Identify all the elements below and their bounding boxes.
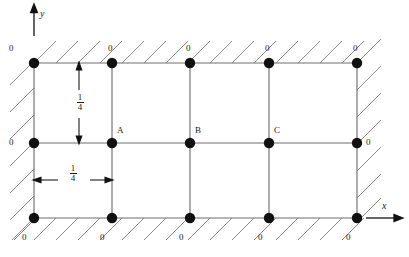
grid-node-b	[185, 138, 195, 148]
grid-node	[107, 213, 117, 223]
grid-drawing-canvas	[0, 0, 409, 257]
y-axis-label: y	[40, 9, 44, 19]
fraction-denominator: 4	[65, 174, 81, 183]
dimension-label-vertical-quarter: 1 4	[72, 93, 88, 113]
grid-node	[29, 58, 39, 68]
grid-node-c	[264, 138, 274, 148]
grid-node	[264, 213, 274, 223]
grid-node	[264, 58, 274, 68]
hatching-top	[34, 41, 379, 63]
x-axis-label: x	[382, 201, 386, 211]
dimension-label-horizontal-quarter: 1 4	[65, 164, 81, 184]
grid-node	[29, 213, 39, 223]
node-label-a: A	[117, 126, 124, 135]
boundary-label-top-4: 0	[353, 44, 358, 53]
node-label-b: B	[195, 126, 201, 135]
boundary-label-top-3: 0	[265, 44, 270, 53]
grid-node	[185, 58, 195, 68]
x-axis-arrowhead	[394, 214, 403, 221]
hatching-left	[10, 61, 34, 240]
hatching-group	[10, 39, 381, 240]
boundary-label-right-0: 0	[366, 138, 371, 147]
grid-node	[29, 138, 39, 148]
grid-node-a	[107, 138, 117, 148]
fraction-denominator: 4	[72, 103, 88, 112]
grid-node	[107, 58, 117, 68]
boundary-label-bottom-3: 0	[258, 233, 263, 242]
boundary-label-bottom-4: 0	[346, 233, 351, 242]
y-axis-arrowhead	[31, 4, 38, 13]
boundary-label-bottom-0: 0	[22, 233, 27, 242]
boundary-label-top-1: 0	[108, 44, 113, 53]
boundary-label-top-0: 0	[9, 44, 14, 53]
grid-node	[352, 138, 362, 148]
boundary-label-top-2: 0	[186, 44, 191, 53]
boundary-label-bottom-1: 0	[100, 233, 105, 242]
grid-lines-group	[34, 63, 357, 218]
boundary-label-bottom-2: 0	[179, 233, 184, 242]
grid-node	[185, 213, 195, 223]
finite-difference-grid-figure: y x 0 0 0 0 0 0 0 0 0 0 0 0 A B C 1 4 1 …	[0, 0, 409, 257]
boundary-label-left-0: 0	[9, 138, 14, 147]
fraction-numerator: 1	[72, 93, 88, 102]
grid-node	[352, 58, 362, 68]
fraction-numerator: 1	[65, 164, 81, 173]
node-label-c: C	[274, 126, 280, 135]
grid-node	[352, 213, 362, 223]
